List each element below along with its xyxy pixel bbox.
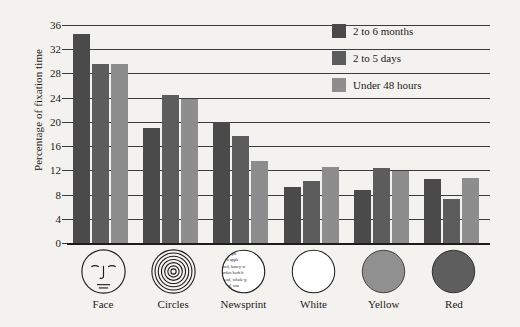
bar [111,64,128,243]
red-disc-icon [430,248,477,295]
y-tick-label: 4 [56,213,62,224]
category-white: White [284,248,344,324]
y-tick-label: 28 [50,68,61,79]
y-axis-title: Percentage of fixation time [32,0,44,220]
bar-group [424,25,484,243]
bar [424,179,441,243]
y-tick-label: 36 [50,20,61,31]
bar-chart: Percentage of fixation time 363228242016… [0,0,520,327]
bar [73,34,90,243]
concentric-circles-icon [150,248,197,295]
category-axis: Face Circles ect pri kes apple r [67,248,490,324]
y-tick-label: 12 [50,165,61,176]
bar [354,190,371,243]
svg-text:arden herb b: arden herb b [222,270,244,275]
y-tick-label: 8 [56,189,62,200]
bar [462,178,479,243]
bar [392,171,409,243]
bar-group [143,25,203,243]
y-tick-label: 24 [50,92,61,103]
category-label: Yellow [368,298,399,310]
bar [284,187,301,243]
y-tick-label: 32 [50,44,61,55]
bar [443,199,460,243]
category-label: White [300,298,327,310]
y-tick-label: 16 [50,141,61,152]
bar-group [73,25,133,243]
category-label: Red [445,298,463,310]
bar-group [213,25,273,243]
bar [303,181,320,243]
legend-swatch [332,51,346,65]
newsprint-icon: ect pri kes apple raid, honey w arden he… [220,248,267,295]
bar [213,122,230,243]
bar [373,168,390,243]
bar [322,167,339,243]
bar [92,64,109,243]
bar [232,136,249,243]
legend-swatch [332,24,346,38]
category-face: Face [73,248,133,324]
legend-item: 2 to 5 days [332,51,421,65]
bar [181,99,198,243]
category-label: Face [93,298,114,310]
category-label: Circles [158,298,189,310]
white-disc-icon [290,248,337,295]
face-icon [80,248,127,295]
legend-item: 2 to 6 months [332,24,421,38]
y-tick-label: 20 [50,116,61,127]
bar [162,95,179,243]
bar [143,128,160,243]
legend-label: 2 to 6 months [353,25,413,37]
category-circles: Circles [143,248,203,324]
yellow-disc-icon [360,248,407,295]
gridline [67,243,490,245]
legend-item: Under 48 hours [332,78,421,92]
category-newsprint: ect pri kes apple raid, honey w arden he… [213,248,273,324]
y-tick-label: 0 [56,238,62,249]
legend-label: Under 48 hours [353,79,421,91]
legend-label: 2 to 5 days [353,52,401,64]
bar-groups [67,25,490,243]
legend: 2 to 6 months2 to 5 daysUnder 48 hours [332,24,421,92]
category-label: Newsprint [220,298,266,310]
category-yellow: Yellow [354,248,414,324]
legend-swatch [332,78,346,92]
category-red: Red [424,248,484,324]
plot-area: 36322824201612840 [67,25,490,243]
y-tick-mark [62,243,67,244]
bar [251,161,268,243]
